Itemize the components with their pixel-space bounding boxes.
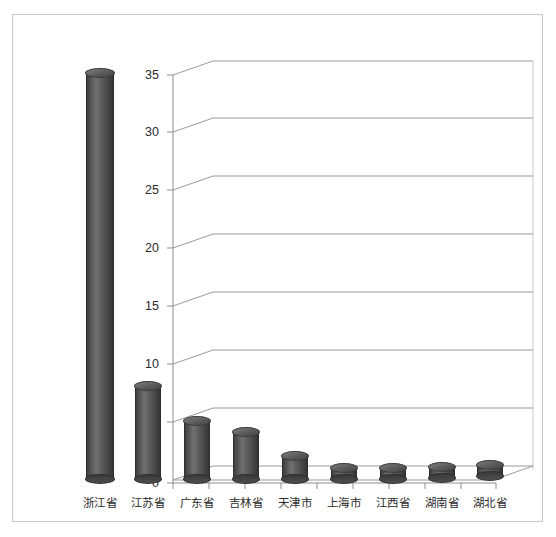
bar-bottom-ellipse: [379, 474, 407, 484]
bar-bottom-ellipse: [85, 474, 115, 484]
bar-hubei[interactable]: [477, 465, 503, 476]
bar-bottom-ellipse: [281, 474, 309, 484]
bar-body: [233, 432, 259, 479]
bar-top-ellipse: [232, 427, 260, 437]
bar-bottom-ellipse: [476, 471, 504, 481]
bar-shanghai[interactable]: [331, 468, 357, 479]
bar-top-ellipse: [379, 463, 407, 473]
bar-hunan[interactable]: [429, 467, 455, 478]
bar-body: [184, 421, 210, 479]
bar-top-ellipse: [134, 381, 162, 391]
bar-guangdong[interactable]: [184, 421, 210, 479]
y-tick-label-30: 30: [125, 126, 159, 138]
bar-jiangsu[interactable]: [135, 386, 161, 479]
bar-top-ellipse: [428, 462, 456, 472]
bar-bottom-ellipse: [330, 474, 358, 484]
y-tick-label-15: 15: [125, 300, 159, 312]
x-tick-label-hubei: 湖北省: [455, 494, 525, 510]
plot-area: 35 30 25 20 15 10 5 0: [13, 15, 544, 523]
y-tick-label-10: 10: [125, 358, 159, 370]
bar-jilin[interactable]: [233, 432, 259, 479]
y-tick-label-25: 25: [125, 184, 159, 196]
bar-top-ellipse: [85, 68, 115, 78]
bar-bottom-ellipse: [428, 473, 456, 483]
bar-top-ellipse: [281, 451, 309, 461]
chart-frame: 35 30 25 20 15 10 5 0: [12, 14, 543, 522]
bar-bottom-ellipse: [232, 474, 260, 484]
bar-bottom-ellipse: [134, 474, 162, 484]
bar-body: [135, 386, 161, 479]
bar-tianjin[interactable]: [282, 456, 308, 479]
bar-bottom-ellipse: [183, 474, 211, 484]
y-tick-label-20: 20: [125, 242, 159, 254]
bar-top-ellipse: [476, 460, 504, 470]
bar-top-ellipse: [330, 463, 358, 473]
bar-top-ellipse: [183, 416, 211, 426]
y-tick-label-35: 35: [125, 69, 159, 81]
bar-zhejiang[interactable]: [86, 73, 114, 479]
bar-body: [86, 73, 114, 479]
bar-jiangxi[interactable]: [380, 468, 406, 479]
